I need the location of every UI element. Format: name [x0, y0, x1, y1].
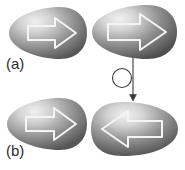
rotation-circle-icon: [113, 69, 132, 88]
egg-top-left: [8, 6, 88, 60]
egg-top-left-graphic: [8, 6, 88, 60]
egg-top-right-graphic: [90, 3, 178, 61]
figure-canvas: (a): [0, 0, 185, 170]
egg-top-right: [90, 3, 178, 61]
panel-label-b: (b): [6, 143, 24, 158]
egg-bottom-right-graphic: [90, 100, 180, 158]
transition-graphic: [104, 56, 150, 104]
rotation-transition-symbol: [104, 56, 150, 104]
panel-label-a: (a): [6, 56, 24, 71]
egg-bottom-right: [90, 100, 180, 158]
